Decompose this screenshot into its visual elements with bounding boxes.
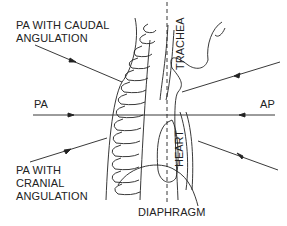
label-pa-caudal-line2: ANGULATION [16, 32, 110, 45]
label-heart: HEART [173, 130, 185, 167]
label-pa-caudal-line1: PA WITH CAUDAL [16, 19, 110, 32]
back-outline [106, 18, 137, 200]
label-pa-cranial-line1: PA WITH [16, 164, 88, 177]
label-pa-cranial: PA WITH CRANIAL ANGULATION [16, 164, 88, 203]
label-pa-caudal: PA WITH CAUDAL ANGULATION [16, 19, 110, 45]
label-trachea: TRACHEA [174, 17, 186, 70]
pa-caudal-beam [35, 45, 122, 82]
ap-upper-beam [182, 62, 280, 92]
label-pa-cranial-line2: CRANIAL [16, 177, 88, 190]
ap-lower-beam [198, 141, 278, 170]
label-pa-cranial-line3: ANGULATION [16, 190, 88, 203]
label-diaphragm: DIAPHRAGM [138, 206, 206, 219]
label-ap: AP [260, 98, 275, 111]
spine [112, 24, 156, 200]
label-pa: PA [34, 98, 48, 111]
